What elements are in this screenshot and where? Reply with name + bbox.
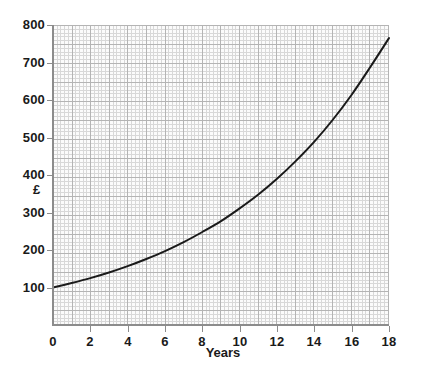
curve-path	[53, 38, 389, 287]
y-tick-label: 300	[5, 205, 45, 220]
y-tick-label: 500	[5, 130, 45, 145]
y-tick-mark	[47, 288, 53, 289]
y-tick-mark	[47, 63, 53, 64]
y-tick-mark	[47, 250, 53, 251]
x-tick-mark	[128, 326, 129, 332]
y-tick-label: 200	[5, 242, 45, 257]
x-tick-mark	[277, 326, 278, 332]
x-tick-mark	[352, 326, 353, 332]
y-axis-title: £	[33, 182, 40, 197]
x-tick-mark	[314, 326, 315, 332]
x-axis-line	[52, 324, 389, 326]
line-chart-figure: 100200300400500600700800 024681012141618…	[0, 0, 446, 372]
y-tick-label: 600	[5, 92, 45, 107]
y-tick-label: 800	[5, 17, 45, 32]
x-tick-mark	[389, 326, 390, 332]
y-tick-label: 100	[5, 280, 45, 295]
y-tick-mark	[47, 100, 53, 101]
x-axis-title: Years	[0, 345, 446, 360]
series-curve-value	[53, 25, 389, 325]
x-tick-mark	[240, 326, 241, 332]
x-tick-mark	[202, 326, 203, 332]
y-tick-label: 400	[5, 167, 45, 182]
y-tick-label: 700	[5, 55, 45, 70]
y-tick-mark	[47, 213, 53, 214]
plot-area	[53, 25, 389, 325]
y-tick-mark	[47, 175, 53, 176]
x-tick-mark	[165, 326, 166, 332]
y-tick-mark	[47, 138, 53, 139]
x-tick-mark	[90, 326, 91, 332]
y-tick-mark	[47, 25, 53, 26]
